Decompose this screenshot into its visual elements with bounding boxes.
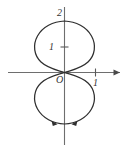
x-axis-arrowhead: [114, 70, 121, 76]
plot-area: [0, 0, 129, 150]
math-figure: 2 1 O 1: [0, 0, 129, 150]
x-axis-tick-label-1: 1: [93, 78, 98, 88]
origin-label: O: [56, 75, 63, 85]
y-axis-tick-label-2: 2: [57, 8, 62, 18]
y-axis-tick-label-1: 1: [49, 42, 54, 52]
